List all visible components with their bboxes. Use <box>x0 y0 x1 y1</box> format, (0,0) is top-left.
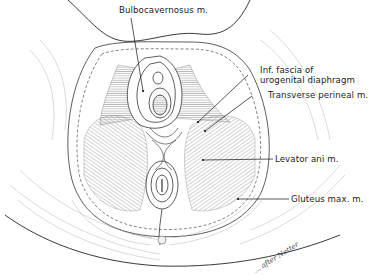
levator-ani-left <box>84 116 148 211</box>
label-gluteus-max: Gluteus max. m. <box>291 194 364 204</box>
label-inf-fascia-line1: Inf. fascia of <box>260 65 313 75</box>
label-levator-ani: Levator ani m. <box>275 154 339 164</box>
label-bulbocavernosus: Bulbocavernosus m. <box>119 5 208 15</box>
label-inf-fascia-line2: urogenital diaphragm <box>260 75 355 85</box>
levator-ani-right <box>185 116 256 211</box>
label-transverse-perineal: Transverse perineal m. <box>268 90 368 100</box>
anal-sphincter <box>146 161 178 245</box>
vulva-structures <box>127 56 182 128</box>
perineal-body <box>146 128 182 170</box>
